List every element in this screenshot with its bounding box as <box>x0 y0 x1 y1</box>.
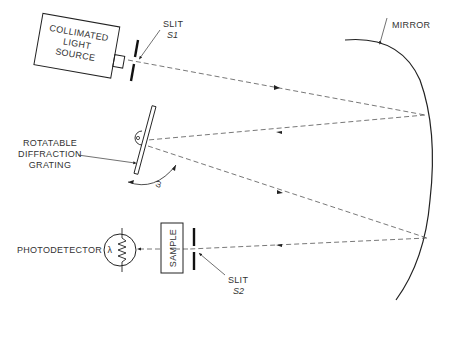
ray-mirror-to-grating <box>148 115 425 140</box>
slit-s2-sublabel: S2 <box>233 286 244 296</box>
grating-label-line3: GRATING <box>29 160 71 170</box>
grating-label-line1: ROTATABLE <box>23 138 77 148</box>
ray-arrow-4 <box>276 244 282 247</box>
photodetector: λ <box>104 228 136 272</box>
ray-arrow-1 <box>274 85 280 90</box>
slit-s2-leader <box>200 254 225 275</box>
spectrophotometer-diagram: COLLIMATED LIGHT SOURCE SLIT S1 MIRROR R… <box>0 0 453 337</box>
omega-symbol: ω <box>152 180 163 189</box>
sample-label: SAMPLE <box>168 229 178 267</box>
grating-leader <box>78 155 135 163</box>
resistor-symbol <box>118 238 126 262</box>
concave-mirror <box>345 40 432 301</box>
ray-arrow-2 <box>276 131 282 134</box>
grating-pivot <box>136 136 139 139</box>
mirror-label: MIRROR <box>392 20 430 30</box>
slit-s2-label: SLIT <box>228 275 248 285</box>
ray-arrow-3 <box>277 190 283 194</box>
lambda-symbol: λ <box>108 245 113 255</box>
photodetector-label: PHOTODETECTOR <box>17 245 102 255</box>
diffraction-grating <box>134 106 156 175</box>
grating-label-line2: DIFFRACTION <box>18 149 82 159</box>
ray-grating-to-mirror <box>148 146 427 238</box>
slit-s1-leader <box>140 30 160 58</box>
rotation-arrow-right <box>172 165 176 171</box>
mirror-leader <box>380 18 387 43</box>
light-source: COLLIMATED LIGHT SOURCE <box>34 13 130 79</box>
ray-mirror-to-slit2 <box>190 238 427 249</box>
slit-s1-label: SLIT <box>163 19 183 29</box>
source-nozzle <box>113 55 125 69</box>
slit-s1-sublabel: S1 <box>167 30 178 40</box>
